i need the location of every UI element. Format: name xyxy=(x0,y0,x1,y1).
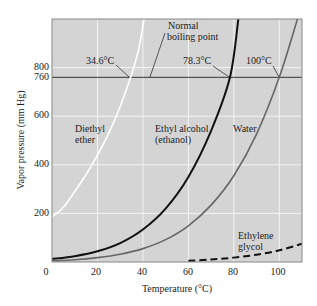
x-tick-100: 100 xyxy=(271,266,286,277)
normal-boiling-point-label-2: boiling point xyxy=(167,31,219,42)
ether-label-2: ether xyxy=(75,134,96,145)
x-tick-20: 20 xyxy=(91,266,101,277)
glycol-label-2: glycol xyxy=(238,241,263,252)
x-tick-40: 40 xyxy=(137,266,147,277)
x-axis-title: Temperature (°C) xyxy=(142,283,212,295)
y-tick-760: 760 xyxy=(34,71,49,82)
y-tick-400: 400 xyxy=(34,158,49,169)
ethanol-label-2: (ethanol) xyxy=(155,134,191,146)
y-axis-title: Vapor pressure (mm Hg) xyxy=(15,90,27,189)
y-tick-200: 200 xyxy=(34,207,49,218)
x-tick-80: 80 xyxy=(228,266,238,277)
ether-bp-label: 34.6°C xyxy=(86,55,114,66)
x-tick-60: 60 xyxy=(183,266,193,277)
vapor-pressure-chart: 800 760 600 400 200 0 20 40 60 80 100 Te… xyxy=(0,0,317,306)
x-tick-0: 0 xyxy=(44,266,49,277)
ethanol-label-1: Ethyl alcohol xyxy=(155,123,209,134)
glycol-label-1: Ethylene xyxy=(238,230,274,241)
ethanol-bp-label: 78.3°C xyxy=(183,55,211,66)
water-bp-label: 100°C xyxy=(246,55,272,66)
water-label: Water xyxy=(233,123,257,134)
ether-label-1: Diethyl xyxy=(75,123,105,134)
y-tick-600: 600 xyxy=(34,109,49,120)
normal-boiling-point-label-1: Normal xyxy=(168,20,199,31)
